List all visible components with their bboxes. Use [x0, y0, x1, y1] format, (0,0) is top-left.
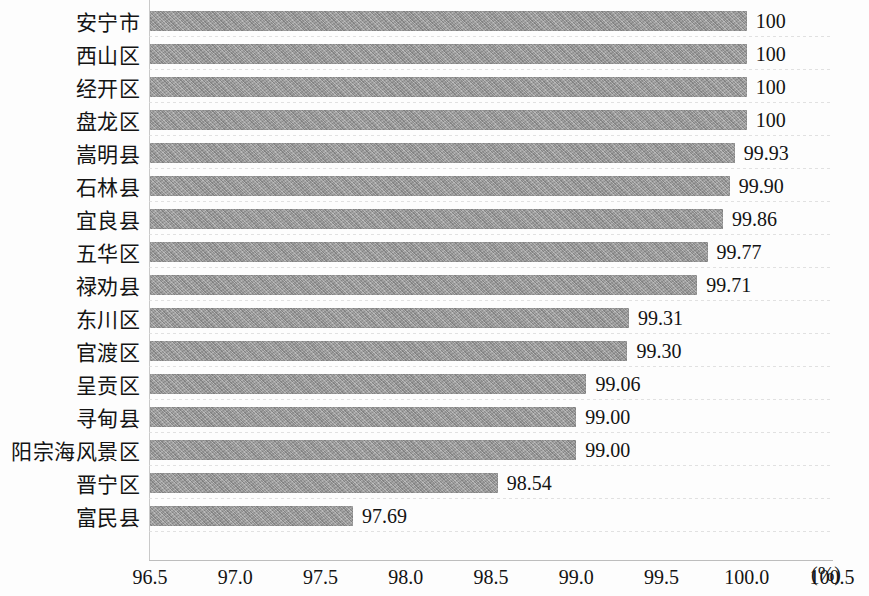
category-label: 晋宁区 [76, 468, 141, 498]
x-axis-unit-label: (%) [811, 563, 841, 586]
bar-row: 西山区100 [150, 37, 832, 70]
category-label: 官渡区 [76, 336, 141, 366]
category-label: 石林县 [76, 171, 141, 201]
bar-row: 晋宁区98.54 [150, 466, 832, 499]
bar [150, 341, 627, 361]
bar-row: 富民县97.69 [150, 499, 832, 532]
category-label: 安宁市 [76, 6, 141, 36]
bar-value-label: 99.77 [717, 240, 762, 263]
x-tick-label: 99.5 [644, 566, 679, 589]
bar [150, 44, 747, 64]
bar [150, 176, 730, 196]
bar [150, 77, 747, 97]
bar-value-label: 100 [756, 42, 786, 65]
bar-value-label: 97.69 [362, 504, 407, 527]
category-label: 经开区 [76, 72, 141, 102]
bar [150, 374, 586, 394]
bar [150, 308, 629, 328]
bar-row: 阳宗海风景区99.00 [150, 433, 832, 466]
x-axis-line [149, 560, 833, 561]
bar-row: 禄劝县99.71 [150, 268, 832, 301]
category-label: 阳宗海风景区 [11, 435, 140, 465]
bar [150, 242, 708, 262]
x-axis-tick-labels: 96.597.097.598.098.599.099.5100.0100.5 [0, 566, 869, 596]
x-tick-label: 97.5 [303, 566, 338, 589]
category-label: 寻甸县 [76, 402, 141, 432]
category-label: 宜良县 [76, 204, 141, 234]
category-label: 东川区 [76, 303, 141, 333]
category-label: 盘龙区 [76, 105, 141, 135]
bar-row: 盘龙区100 [150, 103, 832, 136]
category-label: 呈贡区 [76, 369, 141, 399]
bar-row: 石林县99.90 [150, 169, 832, 202]
bar-row: 宜良县99.86 [150, 202, 832, 235]
bar-row: 嵩明县99.93 [150, 136, 832, 169]
bar-row: 东川区99.31 [150, 301, 832, 334]
bar-row: 五华区99.77 [150, 235, 832, 268]
bar [150, 11, 747, 31]
plot-area: 安宁市100西山区100经开区100盘龙区100嵩明县99.93石林县99.90… [150, 0, 832, 561]
x-tick-label: 99.0 [559, 566, 594, 589]
category-label: 五华区 [76, 237, 141, 267]
bar [150, 209, 723, 229]
bar [150, 407, 576, 427]
bar-value-label: 98.54 [507, 471, 552, 494]
bar-value-label: 99.86 [732, 207, 777, 230]
bar-row: 安宁市100 [150, 4, 832, 37]
bar [150, 440, 576, 460]
bar [150, 275, 697, 295]
category-label: 西山区 [76, 39, 141, 69]
gridline [149, 531, 832, 532]
bar-value-label: 99.06 [595, 372, 640, 395]
bar-value-label: 99.31 [638, 306, 683, 329]
bar-value-label: 100 [756, 75, 786, 98]
bar [150, 506, 353, 526]
bar-value-label: 99.71 [706, 273, 751, 296]
x-tick-label: 98.5 [474, 566, 509, 589]
bar-row: 寻甸县99.00 [150, 400, 832, 433]
category-label: 禄劝县 [76, 270, 141, 300]
category-label: 嵩明县 [76, 138, 141, 168]
bar-value-label: 99.90 [739, 174, 784, 197]
bar-row: 经开区100 [150, 70, 832, 103]
bar-value-label: 99.93 [744, 141, 789, 164]
bar-row: 呈贡区99.06 [150, 367, 832, 400]
bar-row: 官渡区99.30 [150, 334, 832, 367]
bar [150, 143, 735, 163]
bar-value-label: 100 [756, 9, 786, 32]
x-tick-label: 96.5 [133, 566, 168, 589]
bar-value-label: 99.00 [585, 438, 630, 461]
bar-value-label: 99.30 [636, 339, 681, 362]
bar [150, 110, 747, 130]
bar-value-label: 99.00 [585, 405, 630, 428]
category-label: 富民县 [76, 501, 141, 531]
bar-value-label: 100 [756, 108, 786, 131]
bar [150, 473, 498, 493]
x-tick-label: 97.0 [218, 566, 253, 589]
x-tick-label: 98.0 [388, 566, 423, 589]
bar-chart: 安宁市100西山区100经开区100盘龙区100嵩明县99.93石林县99.90… [0, 0, 869, 596]
x-tick-label: 100.0 [724, 566, 769, 589]
